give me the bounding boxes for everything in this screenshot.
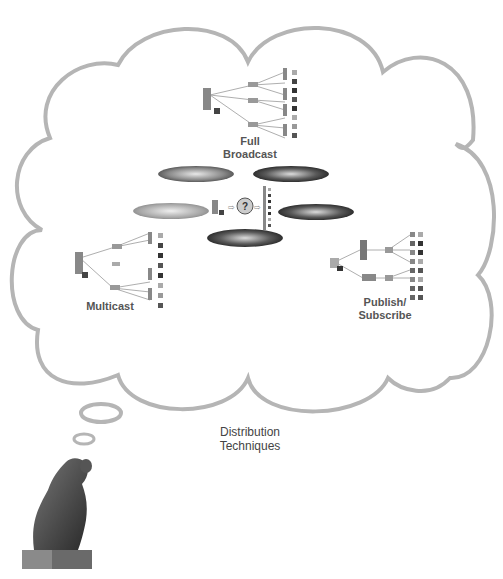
- title-line: Techniques: [210, 439, 290, 453]
- label-line: Subscribe: [355, 309, 415, 322]
- publish-subscribe-label: Publish/ Subscribe: [355, 296, 415, 322]
- full-broadcast-network-icon: [210, 72, 285, 138]
- label-line: Multicast: [80, 300, 140, 313]
- label-line: Publish/: [355, 296, 415, 309]
- publish-subscribe-network-icon: [335, 235, 410, 278]
- network-cloud-icon: [253, 166, 329, 182]
- thinker-statue-icon: [22, 458, 92, 569]
- multicast-label: Multicast: [80, 300, 140, 313]
- network-cloud-icon: [158, 166, 234, 182]
- label-line: Broadcast: [215, 148, 285, 161]
- title-line: Distribution: [210, 425, 290, 439]
- full-broadcast-label: Full Broadcast: [215, 135, 285, 161]
- thought-bubble-small: [74, 434, 94, 444]
- network-cloud-icon: [207, 229, 283, 247]
- label-line: Full: [215, 135, 285, 148]
- svg-text:⇨: ⇨: [254, 203, 261, 212]
- network-cloud-icon: [133, 203, 209, 219]
- distribution-techniques-title: Distribution Techniques: [210, 425, 290, 453]
- network-cloud-icon: [278, 204, 354, 220]
- thought-bubble: ⇨ ? ⇨: [0, 0, 503, 579]
- svg-text:?: ?: [242, 201, 248, 212]
- thought-bubble-medium: [81, 404, 121, 422]
- svg-text:⇨: ⇨: [228, 203, 235, 212]
